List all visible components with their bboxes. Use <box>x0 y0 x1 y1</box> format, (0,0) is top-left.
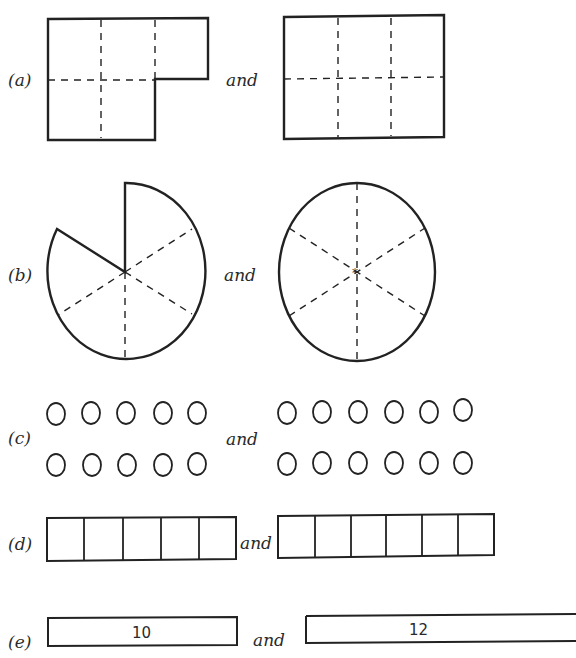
circle-five-sixths <box>47 183 205 360</box>
twelve-circles <box>278 399 472 475</box>
row-b-and: and <box>224 265 256 285</box>
row-a-and: and <box>226 70 258 90</box>
row-e-and: and <box>253 630 285 650</box>
row-b: (b) and * <box>8 183 435 361</box>
rectangle-six-squares <box>284 15 444 139</box>
row-c-and: and <box>226 429 258 449</box>
row-b-label: (b) <box>8 265 32 285</box>
bar-twelve: 12 <box>306 614 576 643</box>
row-c-label: (c) <box>8 428 31 448</box>
fraction-comparison-diagram: (a) and (b) and <box>0 0 576 658</box>
row-d-label: (d) <box>8 534 32 554</box>
ten-circles <box>47 402 206 476</box>
row-e: (e) 10 and 12 <box>8 614 576 652</box>
row-d-and: and <box>240 533 272 553</box>
strip-six-cells <box>278 514 494 558</box>
row-a: (a) and <box>8 15 444 140</box>
row-e-label: (e) <box>8 632 31 652</box>
bar-twelve-value: 12 <box>409 621 428 639</box>
l-shape-five-squares <box>48 18 208 140</box>
bar-ten-value: 10 <box>132 624 151 642</box>
center-mark-icon: * <box>352 266 358 280</box>
row-d: (d) and <box>8 514 494 561</box>
bar-ten: 10 <box>48 617 237 646</box>
circle-six-sixths: * <box>279 183 435 361</box>
row-c: (c) and <box>8 399 472 476</box>
row-a-label: (a) <box>8 70 31 90</box>
strip-five-cells <box>47 517 236 561</box>
